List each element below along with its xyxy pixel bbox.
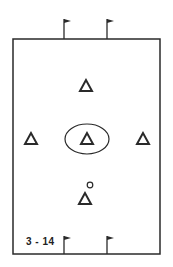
field-boundary [13,39,160,254]
flag-icon-bottom-right [107,236,114,254]
player-triangle-icon-right [137,133,149,144]
flag-icon-top-right [107,19,114,39]
soccer-drill-diagram [0,0,173,267]
player-triangle-icon-top [80,80,92,91]
diagram-label: 3 - 14 [26,236,55,247]
player-triangle-icon-left [25,133,37,144]
ball-icon [87,182,93,188]
player-triangle-icon-bottom [79,182,93,204]
flag-icon-top-left [64,19,71,39]
highlight-ellipse [65,124,109,154]
flag-icon-bottom-left [64,236,71,254]
player-triangle-icon-center [65,124,109,154]
